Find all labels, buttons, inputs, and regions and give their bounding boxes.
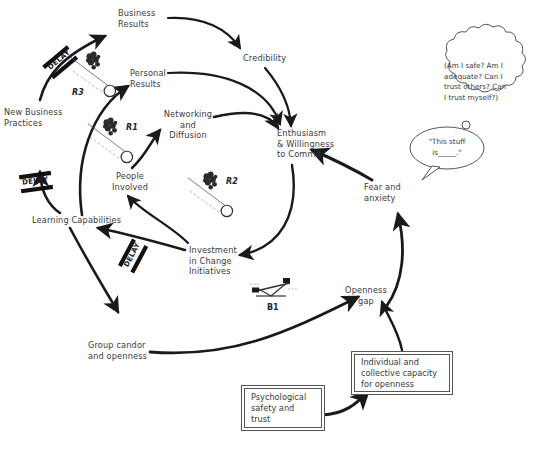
link-people-to-networking: [132, 130, 160, 168]
node-group-candor[interactable]: Group candor and openness: [88, 340, 160, 361]
link-psych-safety-to-capacity: [322, 392, 368, 415]
node-openness-gap[interactable]: Openness gap: [340, 285, 392, 306]
box-capacity-openness[interactable]: Individual and collective capacity for o…: [351, 351, 453, 395]
speech-bubble-text: "This stuff is_____.": [418, 137, 476, 158]
link-learning-to-group-candor: [70, 228, 118, 312]
node-new-business-practices[interactable]: New Business Practices: [4, 107, 76, 128]
box-psychological-safety[interactable]: Psychological safety and trust: [241, 385, 325, 431]
box-capacity-openness-inner: Individual and collective capacity for o…: [354, 354, 450, 392]
node-networking-diffusion[interactable]: Networking and Diffusion: [160, 109, 216, 141]
loop-tag-r3: R3: [72, 88, 84, 97]
link-group-candor-to-openness-gap: [150, 297, 358, 353]
link-networking-to-enthusiasm: [214, 113, 278, 128]
thought-bubble-text: (Am I safe? Am I adequate? Can I trust o…: [444, 61, 520, 103]
node-learning-capabilities[interactable]: Learning Capabilities: [32, 215, 128, 226]
loop-tag-r2: R2: [226, 177, 238, 186]
seesaw-balance-icon-b1: [250, 278, 297, 296]
diagram-canvas: Business Results Credibility Personal Re…: [0, 0, 534, 449]
loop-tag-b1: B1: [267, 303, 279, 312]
node-enthusiasm-commit[interactable]: Enthusiasm & Willingness to Commit: [277, 128, 343, 160]
link-investment-to-learning: [98, 228, 185, 250]
loop-tag-r1: R1: [126, 123, 138, 132]
node-personal-results[interactable]: Personal Results: [130, 68, 186, 89]
node-fear-anxiety[interactable]: Fear and anxiety: [364, 182, 416, 203]
box-psychological-safety-label: Psychological safety and trust: [251, 392, 306, 425]
box-capacity-openness-label: Individual and collective capacity for o…: [361, 357, 437, 390]
node-business-results[interactable]: Business Results: [118, 8, 180, 29]
link-enthusiasm-to-investment: [240, 165, 294, 255]
box-psychological-safety-inner: Psychological safety and trust: [244, 388, 322, 428]
node-credibility[interactable]: Credibility: [243, 53, 303, 64]
link-capacity-to-openness-gap: [382, 302, 402, 350]
node-people-involved[interactable]: People Involved: [104, 171, 156, 192]
link-learning-to-personal-results: [80, 86, 128, 215]
node-investment-change[interactable]: Investment in Change Initiatives: [189, 245, 251, 277]
